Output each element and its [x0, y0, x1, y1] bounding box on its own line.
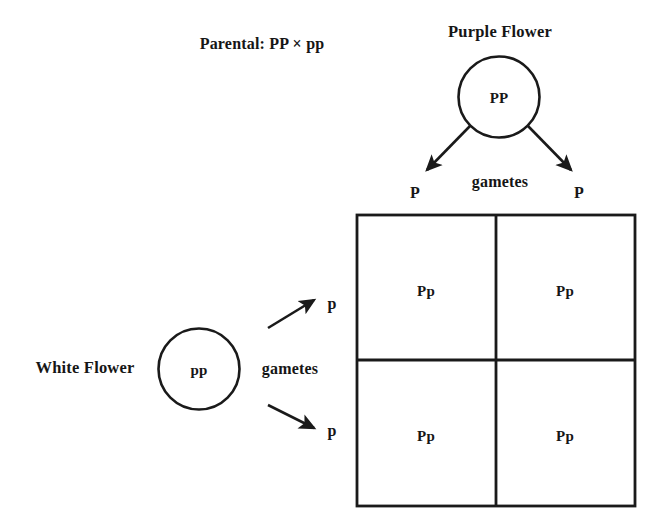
white-gamete-bottom-label: p — [327, 422, 336, 440]
punnett-cell-top-left: Pp — [417, 283, 435, 300]
purple-flower-title: Purple Flower — [448, 22, 552, 42]
white-parent-genotype: pp — [190, 362, 207, 379]
purple-parent-genotype: PP — [490, 90, 509, 107]
white-gametes-label: gametes — [262, 360, 319, 378]
diagram-vector-layer — [0, 0, 660, 531]
white-gamete-top-label: p — [327, 295, 336, 313]
purple-gamete-arrow-left — [427, 126, 470, 170]
punnett-square-diagram: Parental: PP × pp Purple Flower PP gamet… — [0, 0, 660, 531]
punnett-cell-bottom-right: Pp — [556, 428, 574, 445]
purple-gametes-label: gametes — [472, 173, 529, 191]
purple-gamete-right-label: P — [574, 184, 584, 202]
purple-gamete-arrow-right — [528, 126, 571, 170]
parental-cross-label: Parental: PP × pp — [200, 35, 325, 53]
white-flower-title: White Flower — [35, 358, 134, 378]
white-gamete-arrow-bottom — [268, 405, 314, 428]
white-gamete-arrow-top — [268, 300, 314, 328]
purple-gamete-left-label: P — [410, 184, 420, 202]
punnett-cell-top-right: Pp — [556, 283, 574, 300]
punnett-cell-bottom-left: Pp — [417, 428, 435, 445]
